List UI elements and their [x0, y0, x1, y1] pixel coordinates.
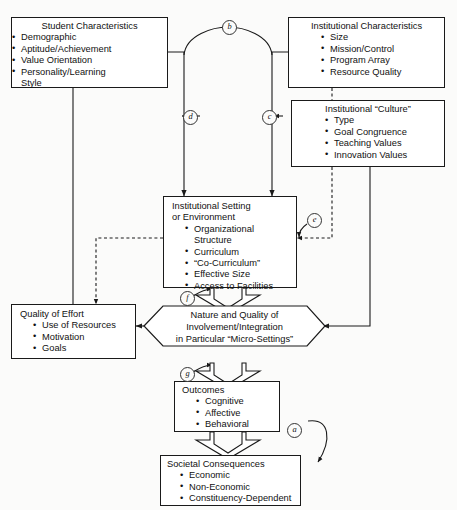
- connector-tag-e: e: [307, 213, 322, 228]
- node-student-characteristics: Student Characteristics Demographic Apti…: [11, 17, 168, 88]
- connector-tag-c: c: [262, 110, 277, 125]
- list-item: Personality/Learning Style: [12, 67, 126, 90]
- quality-of-effort-list: Use of Resources Motivation Goals: [12, 320, 135, 354]
- institutional-setting-title-line1: Institutional Setting: [164, 201, 296, 212]
- list-item: Affective: [196, 408, 279, 419]
- edge-a-curve: [308, 421, 327, 462]
- list-item: Curriculum: [185, 247, 296, 258]
- list-item: Goals: [33, 343, 135, 354]
- nature-and-quality-line3: in Particular “Micro-Settings”: [144, 333, 325, 345]
- list-item: Use of Resources: [33, 320, 135, 331]
- diagram-canvas: Student Characteristics Demographic Apti…: [0, 0, 457, 510]
- list-item: Constituency-Dependent: [180, 493, 300, 504]
- list-item: Teaching Values: [325, 138, 444, 149]
- list-item: Effective Size: [185, 269, 296, 280]
- institutional-setting-list: Organizational Structure Curriculum “Co-…: [164, 224, 296, 292]
- list-item: “Co-Curriculum”: [185, 258, 296, 269]
- outcomes-list: Cognitive Affective Behavioral: [175, 396, 279, 430]
- list-item: Cognitive: [196, 396, 279, 407]
- list-item: Behavioral: [196, 419, 279, 430]
- connector-tag-a: a: [287, 423, 302, 438]
- edge-setting-to-effort: [96, 238, 163, 304]
- societal-consequences-list: Economic Non-Economic Constituency-Depen…: [161, 470, 300, 504]
- connector-tag-d: d: [183, 110, 198, 125]
- list-item: Demographic: [12, 32, 167, 43]
- nature-and-quality-line2: Involvement/Integration: [144, 321, 325, 333]
- list-item: Value Orientation: [12, 55, 167, 66]
- institutional-characteristics-list: Size Mission/Control Program Array Resou…: [289, 32, 444, 78]
- node-institutional-culture: Institutional “Culture” Type Goal Congru…: [291, 100, 445, 167]
- list-item: Mission/Control: [321, 44, 444, 55]
- list-item: Innovation Values: [325, 150, 444, 161]
- edge-e-pointer: [299, 224, 307, 237]
- connector-tag-f: f: [180, 291, 195, 306]
- societal-consequences-title: Societal Consequences: [161, 459, 300, 470]
- edge-culture-to-hex: [323, 167, 370, 326]
- node-quality-of-effort: Quality of Effort Use of Resources Motiv…: [11, 304, 136, 359]
- quality-of-effort-title: Quality of Effort: [12, 309, 135, 320]
- institutional-culture-title: Institutional “Culture”: [292, 104, 444, 115]
- list-item: Aptitude/Achievement: [12, 44, 167, 55]
- list-item: Non-Economic: [180, 482, 300, 493]
- list-item: Program Array: [321, 55, 444, 66]
- institutional-setting-title-line2: or Environment: [164, 212, 296, 223]
- node-outcomes: Outcomes Cognitive Affective Behavioral: [174, 381, 280, 432]
- node-institutional-characteristics: Institutional Characteristics Size Missi…: [288, 17, 445, 88]
- student-characteristics-list: Demographic Aptitude/Achievement Value O…: [12, 32, 167, 89]
- edge-d-trunk: [168, 52, 184, 196]
- list-item: Access to Facilities: [185, 281, 296, 292]
- node-institutional-setting: Institutional Setting or Environment Org…: [163, 196, 297, 288]
- institutional-culture-list: Type Goal Congruence Teaching Values Inn…: [292, 115, 444, 161]
- nature-and-quality-line1: Nature and Quality of: [144, 309, 325, 321]
- list-item: Economic: [180, 470, 300, 481]
- list-item: Size: [321, 32, 444, 43]
- connector-tag-b: b: [222, 20, 237, 35]
- institutional-characteristics-title: Institutional Characteristics: [289, 21, 444, 32]
- list-item: Organizational Structure: [185, 224, 290, 247]
- node-nature-and-quality: Nature and Quality of Involvement/Integr…: [144, 309, 325, 346]
- edge-c-trunk: [272, 52, 288, 196]
- outcomes-title: Outcomes: [175, 385, 279, 396]
- node-societal-consequences: Societal Consequences Economic Non-Econo…: [160, 455, 301, 506]
- list-item: Motivation: [33, 332, 135, 343]
- edge-b-left: [184, 27, 228, 55]
- connector-tag-g: g: [180, 367, 195, 382]
- list-item: Resource Quality: [321, 67, 444, 78]
- student-characteristics-title: Student Characteristics: [12, 21, 167, 32]
- list-item: Goal Congruence: [325, 127, 444, 138]
- list-item: Type: [325, 115, 444, 126]
